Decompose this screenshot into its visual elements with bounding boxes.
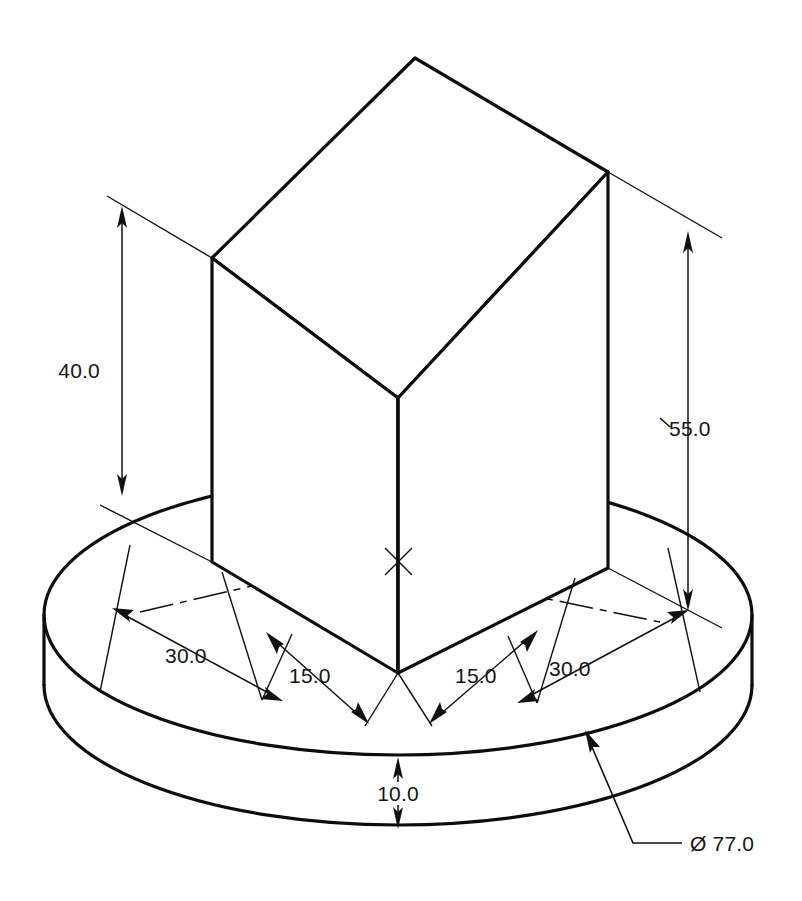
dia77-leader: [589, 740, 682, 843]
dim40-label: 40.0: [58, 359, 100, 382]
dim15L-arrow-bottom: [351, 702, 369, 724]
dim15R-label: 15.0: [455, 664, 497, 687]
dim15L-ext-outer: [222, 572, 262, 700]
dim10-label: 10.0: [377, 782, 419, 805]
dim30L-label: 30.0: [165, 644, 207, 667]
dim30R-arrow-right: [667, 610, 689, 624]
dimension-55: 55.0: [608, 172, 722, 628]
dim15R-arrow-right: [520, 630, 538, 652]
dimension-40: 40.0: [58, 196, 212, 562]
dimension-diameter-77: Ø 77.0: [585, 730, 754, 855]
technical-drawing-canvas: 40.0 55.0 30.0: [0, 0, 802, 901]
dim30R-label: 30.0: [549, 657, 591, 680]
dim15R-arrow-left: [429, 702, 447, 724]
dia77-label: Ø 77.0: [690, 832, 754, 855]
dimension-10: 10.0: [377, 757, 419, 829]
dim15L-arrow-top: [266, 632, 284, 654]
dim30R-arrow-left: [517, 689, 539, 703]
isometric-drawing-svg: 40.0 55.0 30.0: [0, 0, 802, 901]
dim55-label: 55.0: [669, 417, 711, 440]
dim30R-line: [524, 614, 682, 699]
dim15L-ext-inner: [365, 673, 398, 726]
dim55-ext-top: [608, 172, 722, 238]
dim15R-ext-inner: [398, 673, 432, 726]
rectangular-block: [212, 58, 608, 673]
dim55-ext-bottom: [608, 568, 722, 628]
dim15L-label: 15.0: [289, 664, 331, 687]
